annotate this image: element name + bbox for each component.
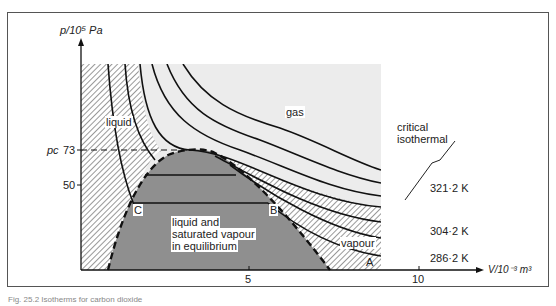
isotherm-label-286K: 286·2 K bbox=[430, 252, 469, 264]
x-tick-5: 5 bbox=[245, 273, 251, 285]
vapour-label: vapour bbox=[340, 237, 376, 249]
gas-label: gas bbox=[285, 106, 305, 118]
coexistence-label-2: saturated vapour bbox=[171, 228, 256, 240]
liquid-label: liquid bbox=[105, 116, 133, 128]
x-axis-arrow-icon bbox=[476, 267, 484, 273]
critical-label: critical bbox=[397, 121, 428, 133]
coexistence-label-1: liquid and bbox=[171, 216, 220, 228]
coexistence-label-3: in equilibrium bbox=[171, 240, 238, 252]
isothermal-label: isothermal bbox=[397, 133, 448, 145]
y-tick-73: 73 bbox=[63, 144, 75, 156]
y-axis-label: p/10⁵ Pa bbox=[60, 24, 103, 36]
isotherm-label-304K: 304·2 K bbox=[430, 225, 469, 237]
point-a: A bbox=[366, 256, 373, 268]
pc-label: pᴄ bbox=[47, 144, 59, 156]
pv-diagram bbox=[0, 0, 556, 306]
point-c: C bbox=[133, 204, 143, 216]
isotherm-label-321K: 321·2 K bbox=[430, 182, 469, 194]
y-axis-arrow-icon bbox=[78, 38, 84, 46]
y-tick-50: 50 bbox=[63, 179, 75, 191]
x-axis-label: V/10⁻³ m³ bbox=[488, 264, 531, 275]
x-tick-10: 10 bbox=[412, 273, 424, 285]
point-b: B bbox=[269, 204, 278, 216]
figure-caption: Fig. 25.2 Isotherms for carbon dioxide bbox=[8, 295, 142, 304]
